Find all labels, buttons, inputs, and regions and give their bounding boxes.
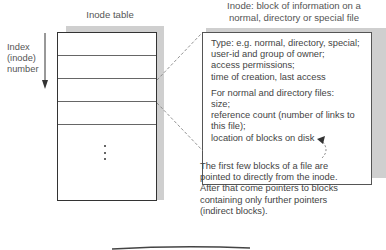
- annotation-arrow-icon: [317, 136, 326, 158]
- index-down-arrow-icon: [42, 33, 48, 89]
- dashed-connector-top: [157, 34, 201, 80]
- dashed-connector-bottom: [157, 103, 203, 151]
- bottom-swoosh-divider: [112, 247, 250, 249]
